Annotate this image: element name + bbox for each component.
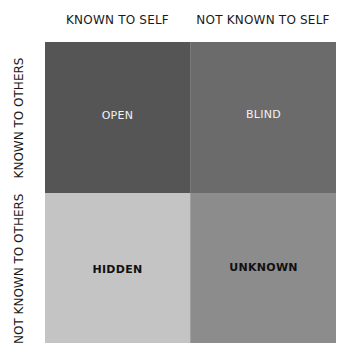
quadrant-hidden-label: HIDDEN — [92, 263, 142, 276]
column-header-not-known-to-self: NOT KNOWN TO SELF — [190, 13, 336, 27]
quadrant-unknown: UNKNOWN — [190, 193, 336, 343]
johari-grid: OPEN BLIND HIDDEN UNKNOWN — [45, 42, 336, 343]
quadrant-unknown-label: UNKNOWN — [229, 261, 298, 274]
quadrant-blind-label: BLIND — [246, 108, 281, 121]
row-header-known-to-others: KNOWN TO OTHERS — [12, 43, 28, 193]
quadrant-hidden: HIDDEN — [45, 193, 190, 343]
row-header-not-known-to-others: NOT KNOWN TO OTHERS — [12, 194, 28, 344]
quadrant-blind: BLIND — [190, 42, 336, 193]
quadrant-open-label: OPEN — [102, 109, 134, 122]
quadrant-open: OPEN — [45, 42, 190, 193]
column-header-known-to-self: KNOWN TO SELF — [45, 13, 190, 27]
